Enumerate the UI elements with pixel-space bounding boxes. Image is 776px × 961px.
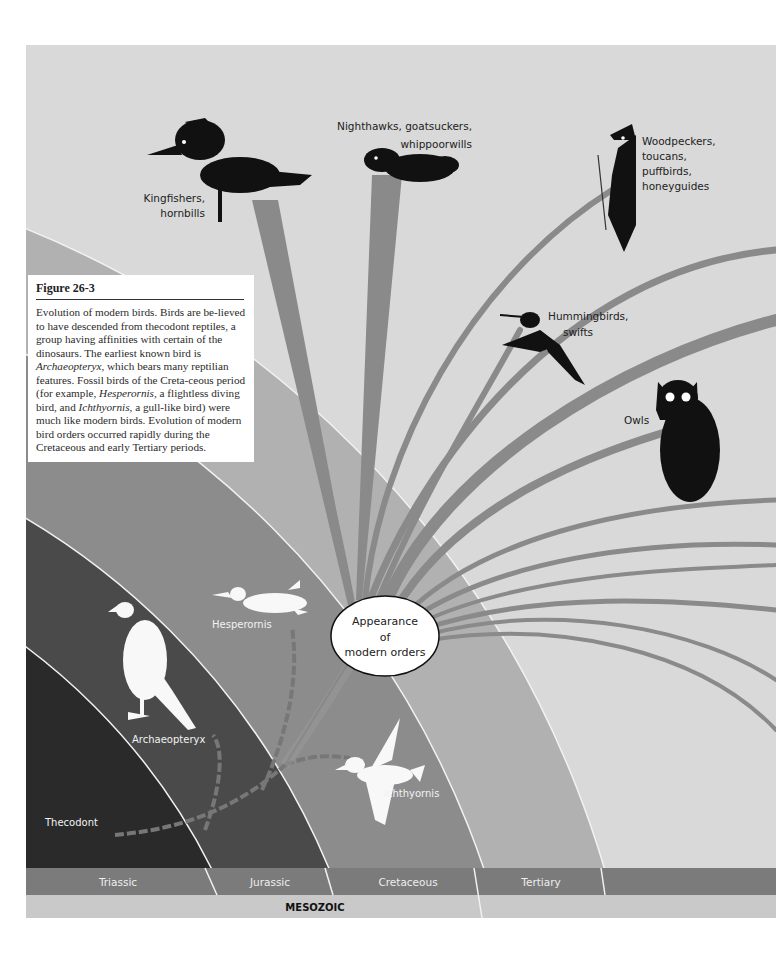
period-jurassic: Jurassic	[249, 876, 290, 888]
woodpeckers-label-1: Woodpeckers,	[642, 135, 715, 147]
period-cretaceous: Cretaceous	[378, 876, 437, 888]
era-mesozoic: MESOZOIC	[285, 902, 344, 913]
bird-evolution-figure: Appearance of modern orders Kingfishers,…	[0, 0, 776, 961]
hesperornis-label: Hesperornis	[212, 619, 272, 630]
kingfishers-label-1: Kingfishers,	[144, 192, 205, 204]
archaeopteryx-label: Archaeopteryx	[132, 734, 205, 745]
timeline: Triassic Jurassic Cretaceous Tertiary ME…	[26, 868, 776, 918]
era-bar	[26, 895, 776, 918]
woodpeckers-label-4: honeyguides	[642, 180, 709, 192]
nighthawks-label-1: Nighthawks, goatsuckers,	[337, 120, 472, 132]
figure-number: Figure 26-3	[36, 281, 244, 300]
woodpeckers-label-3: puffbirds,	[642, 165, 692, 177]
caption-text: Evolution of modern birds. Birds are be-…	[36, 306, 248, 455]
thecodont-label: Thecodont	[44, 817, 98, 828]
center-label-line1: Appearance	[352, 615, 418, 628]
woodpeckers-label-2: toucans,	[642, 150, 687, 162]
kingfishers-label-2: hornbills	[160, 207, 205, 219]
figure-caption: Figure 26-3 Evolution of modern birds. B…	[28, 275, 254, 462]
modern-orders-origin: Appearance of modern orders	[331, 596, 439, 676]
center-label-line3: modern orders	[344, 646, 425, 659]
center-label-line2: of	[380, 631, 392, 644]
hummingbirds-label-1: Hummingbirds,	[548, 310, 628, 322]
period-triassic: Triassic	[98, 876, 137, 888]
nighthawks-label-2: whippoorwills	[401, 138, 472, 150]
evolution-diagram: Appearance of modern orders Kingfishers,…	[0, 0, 776, 961]
hummingbirds-label-2: swifts	[563, 326, 593, 338]
owls-label: Owls	[624, 414, 649, 426]
period-tertiary: Tertiary	[520, 876, 560, 888]
ichthyornis-label: Ichthyornis	[384, 788, 439, 799]
